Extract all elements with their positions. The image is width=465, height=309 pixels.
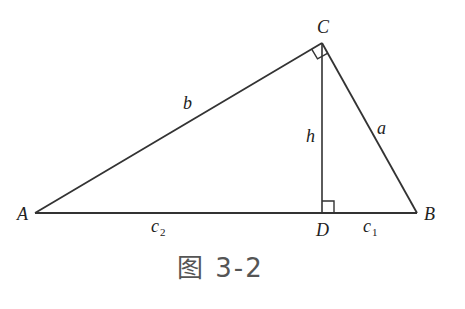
side-bc: [322, 43, 417, 213]
side-label-a: a: [377, 119, 386, 137]
vertex-label-d: D: [316, 221, 329, 239]
side-label-b: b: [183, 94, 192, 112]
side-label-c2: c2: [151, 217, 166, 238]
right-angle-marker-c: [312, 49, 328, 59]
side-label-h: h: [306, 127, 315, 145]
side-label-c1: c1: [363, 217, 378, 238]
c2-base: c: [151, 216, 159, 236]
right-triangle-diagram: C A B D b a h c2 c1 图 3-2: [0, 0, 465, 309]
side-ac: [35, 43, 322, 213]
c1-subscript: 1: [372, 226, 378, 238]
right-angle-marker-d: [322, 201, 334, 213]
vertex-label-b: B: [424, 205, 435, 223]
c2-subscript: 2: [160, 226, 166, 238]
vertex-label-c: C: [317, 18, 329, 36]
c1-base: c: [363, 216, 371, 236]
figure-caption: 图 3-2: [177, 255, 264, 281]
vertex-label-a: A: [17, 205, 28, 223]
